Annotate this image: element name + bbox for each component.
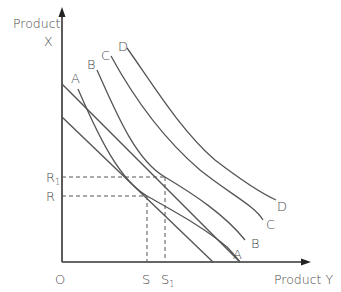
y-axis-label-line1: Product bbox=[13, 16, 61, 31]
origin-label: O bbox=[55, 272, 65, 287]
budget-lines bbox=[62, 84, 240, 262]
s1-label-main: S bbox=[161, 272, 169, 287]
curve-c-top-label: C bbox=[101, 48, 110, 63]
guide-lines bbox=[62, 177, 165, 262]
indifference-curve-a bbox=[78, 89, 240, 262]
indifference-curve-c bbox=[111, 56, 263, 220]
y-axis-label-line2: X bbox=[44, 34, 53, 49]
r1-label-main: R bbox=[46, 170, 55, 185]
indifference-curve-b bbox=[97, 70, 245, 240]
curve-b-bottom-label: B bbox=[251, 236, 260, 251]
indifference-curve-diagram: Product X Product Y O A B C D A B C D R1… bbox=[0, 0, 341, 292]
x-axis-label: Product Y bbox=[274, 272, 333, 287]
curve-a-top-label: A bbox=[71, 71, 80, 86]
indifference-curves bbox=[78, 48, 276, 262]
r1-label: R1 bbox=[46, 170, 60, 187]
curve-c-bottom-label: C bbox=[266, 217, 275, 232]
x-axis-arrow-icon bbox=[301, 259, 311, 266]
r-label: R bbox=[46, 189, 55, 204]
curve-b-top-label: B bbox=[87, 57, 96, 72]
curve-d-bottom-label: D bbox=[277, 199, 287, 214]
curve-a-bottom-label: A bbox=[233, 247, 242, 262]
r1-label-sub: 1 bbox=[55, 178, 60, 187]
s-label: S bbox=[142, 272, 150, 287]
curve-d-top-label: D bbox=[118, 39, 128, 54]
s1-label-sub: 1 bbox=[169, 280, 174, 289]
budget-line-upper bbox=[62, 84, 240, 262]
s1-label: S1 bbox=[161, 272, 174, 289]
